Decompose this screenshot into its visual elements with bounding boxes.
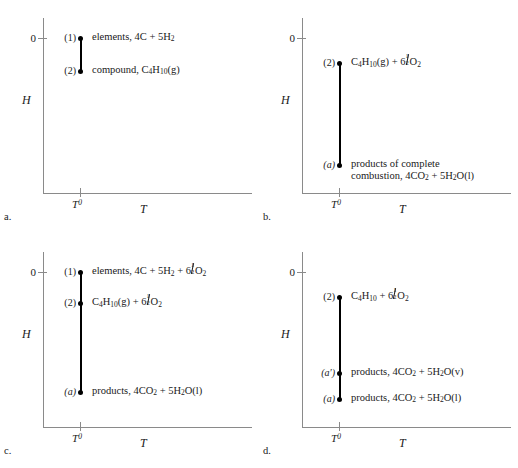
t0-sup: 0 [78,432,82,441]
x-axis-label: T [140,203,147,215]
panel-a: 0 H T0 T (1) elements, 4C + 5H2 (2) comp… [0,0,259,234]
x-axis-t0-tick [339,188,340,197]
x-axis-t0-label: T0 [72,431,82,444]
state-connector-line [339,63,341,165]
state-label-2: C4H10(g) + 612O2 [351,55,421,71]
state-label-a-prime: products, 4CO2 + 5H2O(v) [351,366,464,381]
state-tag-2: (2) [299,58,335,68]
state-tag-2: (2) [40,298,76,308]
y-axis-label: H [281,328,290,340]
x-axis-label: T [399,203,406,215]
y-axis-label: H [22,328,31,340]
y-axis-zero-label: 0 [283,33,295,44]
state-label-2: C4H10 + 612O2 [351,289,409,305]
x-axis-label: T [399,437,406,449]
state-dot-a [337,163,342,168]
panel-caption-c: c. [4,445,11,456]
state-label-a: products of completecombustion, 4CO2 + 5… [351,158,474,185]
y-axis-line [43,252,44,428]
state-tag-a-prime: (a′) [293,368,335,378]
x-axis-line [302,427,511,428]
x-axis-t0-tick [80,422,81,431]
x-axis-t0-label: T0 [331,197,341,210]
state-label-a: products, 4CO2 + 5H2O(l) [351,392,461,407]
t0-sup: 0 [337,198,341,207]
state-label-2: C4H10(g) + 612O2 [92,295,162,311]
state-tag-1: (1) [40,267,76,277]
y-axis-zero-label: 0 [24,33,36,44]
panel-caption-b: b. [263,211,271,222]
x-axis-t0-label: T0 [331,431,341,444]
state-connector-line [80,272,82,392]
y-axis-zero-label: 0 [24,267,36,278]
y-axis-label: H [22,94,31,106]
x-axis-label: T [140,437,147,449]
state-dot-2 [337,61,342,66]
x-axis-t0-tick [339,422,340,431]
panel-caption-d: d. [263,445,271,456]
state-connector-line [339,297,341,399]
state-tag-1: (1) [40,33,76,43]
state-label-a: products, 4CO2 + 5H2O(l) [92,385,202,400]
panel-c: 0 H T0 T (1) elements, 4C + 5H2 + 612O2 … [0,234,259,468]
panel-d: 0 H T0 T (2) C4H10 + 612O2 (a′) products… [259,234,518,468]
state-dot-2 [78,69,83,74]
state-dot-2 [78,301,83,306]
state-dot-1 [78,270,83,275]
state-tag-2: (2) [40,66,76,76]
enthalpy-diagram-figure: 0 H T0 T (1) elements, 4C + 5H2 (2) comp… [0,0,518,468]
panel-b: 0 H T0 T (2) C4H10(g) + 612O2 (a) produc… [259,0,518,234]
panel-caption-a: a. [4,211,11,222]
t0-sup: 0 [337,432,341,441]
x-axis-line [43,193,252,194]
x-axis-t0-label: T0 [72,197,82,210]
x-axis-line [302,193,511,194]
state-dot-a [337,397,342,402]
state-dot-a [78,390,83,395]
state-tag-a: (a) [299,160,335,170]
state-dot-a-prime [337,371,342,376]
state-tag-a: (a) [40,387,76,397]
y-axis-zero-tick [297,38,306,39]
y-axis-zero-tick [297,272,306,273]
state-connector-line [80,38,82,71]
y-axis-line [43,18,44,194]
y-axis-label: H [281,94,290,106]
state-label-1: elements, 4C + 5H2 [92,31,175,46]
x-axis-line [43,427,252,428]
state-label-2: compound, C4H10(g) [92,64,180,79]
t0-sup: 0 [78,198,82,207]
y-axis-zero-label: 0 [283,267,295,278]
state-label-1: elements, 4C + 5H2 + 612O2 [92,264,206,280]
state-tag-a: (a) [299,394,335,404]
state-dot-1 [78,36,83,41]
x-axis-t0-tick [80,188,81,197]
state-dot-2 [337,295,342,300]
state-tag-2: (2) [299,292,335,302]
